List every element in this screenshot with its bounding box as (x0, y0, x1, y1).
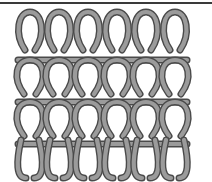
stitch-loop (162, 102, 188, 136)
stitch-loop (133, 102, 159, 136)
stitch-loop (46, 102, 72, 136)
stitch-loop (46, 60, 72, 94)
stitch-loop (75, 102, 101, 136)
stitch-loop (17, 60, 43, 94)
stitch-loop (75, 60, 101, 94)
stitch-loop (162, 60, 188, 94)
stitch-loop (17, 102, 43, 136)
stitch-loop-top (164, 12, 187, 50)
stitch-loop-top (19, 12, 42, 50)
stitch-loop-top (48, 12, 71, 50)
stitch-loop-top (77, 12, 100, 50)
stitch-loop (104, 60, 130, 94)
stitch-loop (104, 102, 130, 136)
stitch-loop (133, 60, 159, 94)
stitch-loop-top (135, 12, 158, 50)
knit-stitch-diagram (0, 0, 212, 182)
stitch-loop-top (106, 12, 129, 50)
